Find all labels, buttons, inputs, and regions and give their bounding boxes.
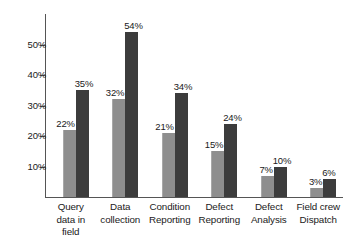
x-axis-category-line: Field crew xyxy=(290,201,348,214)
y-axis-tick-label: 50% xyxy=(0,40,46,50)
bar-group: 3%6% xyxy=(310,14,336,197)
bar xyxy=(323,179,336,197)
bar-value-label: 15% xyxy=(205,139,224,150)
y-axis-tick-label: 20% xyxy=(0,131,46,141)
bar-value-label: 34% xyxy=(174,81,192,92)
bar xyxy=(162,133,175,197)
bar-value-label: 10% xyxy=(273,155,291,166)
bar-chart: 22%35%32%54%21%34%15%24%7%10%3%6% Queryd… xyxy=(0,0,351,248)
y-axis-tick-text: 20% xyxy=(8,131,46,141)
plot-area: 22%35%32%54%21%34%15%24%7%10%3%6% xyxy=(46,14,343,197)
bar xyxy=(211,151,224,197)
bar-value-label: 3% xyxy=(309,176,323,187)
bar xyxy=(125,32,138,197)
bar xyxy=(224,124,237,197)
bar xyxy=(76,90,89,197)
x-axis-category-line: field xyxy=(42,226,100,239)
bar xyxy=(112,99,125,197)
bar-value-label: 54% xyxy=(124,20,142,31)
y-axis-tick-text: 10% xyxy=(8,162,46,172)
x-axis-category-labels: Querydata infieldDatacollectionCondition… xyxy=(46,201,343,248)
y-axis-tick-label: 30% xyxy=(0,101,46,111)
bar-value-label: 35% xyxy=(75,78,93,89)
bar xyxy=(310,188,323,197)
bar xyxy=(63,130,76,197)
bar-value-label: 22% xyxy=(56,118,75,129)
x-axis-line xyxy=(45,197,343,198)
bar-value-label: 32% xyxy=(106,87,125,98)
y-axis-tick-text: 50% xyxy=(8,40,46,50)
bar xyxy=(175,93,188,197)
x-axis-category-label: Field crewDispatch xyxy=(290,201,348,226)
y-axis-tick-text: 30% xyxy=(8,101,46,111)
bar-group: 15%24% xyxy=(211,14,237,197)
bar xyxy=(274,167,287,198)
bar-group: 22%35% xyxy=(63,14,89,197)
y-axis-tick-text: 40% xyxy=(8,70,46,80)
bar-value-label: 6% xyxy=(322,167,335,178)
y-axis-tick-label: 40% xyxy=(0,70,46,80)
bar-value-label: 21% xyxy=(155,121,174,132)
y-axis-tick-label: 10% xyxy=(0,162,46,172)
bar-group: 7%10% xyxy=(261,14,287,197)
bar-value-label: 7% xyxy=(259,164,273,175)
bar-group: 21%34% xyxy=(162,14,188,197)
x-axis-category-line: Dispatch xyxy=(290,214,348,227)
bar xyxy=(261,176,274,197)
bar-group: 32%54% xyxy=(112,14,138,197)
bar-value-label: 24% xyxy=(223,112,241,123)
